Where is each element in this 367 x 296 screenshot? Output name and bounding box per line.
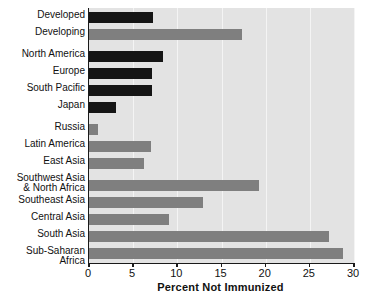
- category-label: Russia: [0, 122, 85, 132]
- bar: [89, 231, 329, 242]
- bar: [89, 124, 98, 135]
- category-label: Sub-Saharan Africa: [0, 246, 85, 266]
- bar: [89, 51, 163, 62]
- bar: [89, 68, 152, 79]
- category-label: Europe: [0, 66, 85, 76]
- bar-chart: DevelopedDevelopingNorth AmericaEuropeSo…: [0, 0, 367, 296]
- x-axis-tick-label: 5: [129, 267, 135, 279]
- x-axis-tick-label: 10: [170, 267, 182, 279]
- category-label: Developed: [0, 10, 85, 20]
- bar: [89, 248, 343, 259]
- x-axis-tick-labels: 051015202530: [88, 267, 353, 280]
- category-label: Developing: [0, 27, 85, 37]
- category-label: Southeast Asia: [0, 195, 85, 205]
- x-axis-title: Percent Not Immunized: [88, 281, 353, 293]
- bar: [89, 85, 152, 96]
- category-label: Central Asia: [0, 212, 85, 222]
- gridline: [354, 8, 355, 263]
- category-label: Southwest Asia & North Africa: [0, 173, 85, 193]
- category-label: South Asia: [0, 229, 85, 239]
- bar: [89, 141, 151, 152]
- bar: [89, 197, 203, 208]
- category-labels: DevelopedDevelopingNorth AmericaEuropeSo…: [0, 8, 85, 263]
- x-axis-tick-label: 20: [259, 267, 271, 279]
- category-label: South Pacific: [0, 83, 85, 93]
- bar: [89, 12, 153, 23]
- bar: [89, 158, 144, 169]
- category-label: Japan: [0, 100, 85, 110]
- x-axis-tick-label: 30: [347, 267, 359, 279]
- bar: [89, 180, 259, 191]
- plot-area: [88, 8, 354, 264]
- x-axis-tick-label: 0: [85, 267, 91, 279]
- bar: [89, 214, 169, 225]
- category-label: North America: [0, 49, 85, 59]
- bars-layer: [89, 8, 354, 263]
- x-axis-tick-label: 15: [214, 267, 226, 279]
- x-axis-tick-label: 25: [303, 267, 315, 279]
- category-label: Latin America: [0, 139, 85, 149]
- bar: [89, 102, 116, 113]
- category-label: East Asia: [0, 156, 85, 166]
- bar: [89, 29, 242, 40]
